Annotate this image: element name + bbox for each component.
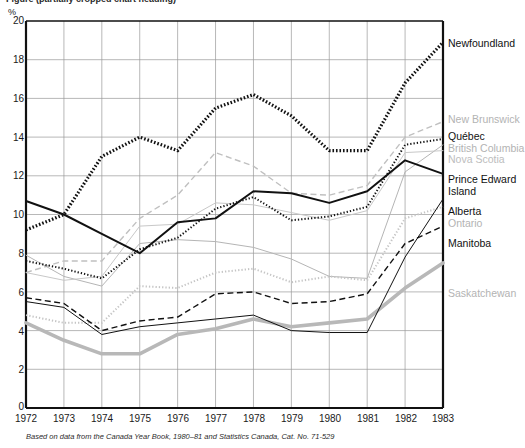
series-label-saskatchewan: Saskatchewan (448, 288, 516, 299)
series-label-alberta: Alberta (448, 206, 481, 217)
series-label-manitoba: Manitoba (448, 238, 491, 249)
source-footnote: Based on data from the Canada Year Book,… (26, 432, 334, 441)
series-line-alberta (26, 199, 443, 334)
series-label-british-columbia: British Columbia (448, 143, 524, 154)
unemployment-line-chart-figure: Figure (partially cropped chart heading)… (0, 0, 525, 448)
series-line-nova-scotia (26, 151, 443, 281)
series-label-prince-edward-island-line2: Island (448, 186, 476, 197)
series-label-prince-edward-island: Prince Edward (448, 174, 516, 185)
series-label-newfoundland: Newfoundland (448, 38, 515, 49)
series-label-ontario: Ontario (448, 218, 482, 229)
series-line-british-columbia (26, 145, 443, 286)
series-line-new-brunswick (26, 122, 443, 273)
series-line-newfoundland (26, 42, 443, 230)
series-label-nova-scotia: Nova Scotia (448, 154, 505, 165)
plot-canvas (0, 0, 525, 448)
series-label-new-brunswick: New Brunswick (448, 114, 520, 125)
series-label-quebec: Québec (448, 131, 485, 142)
data-series-layer (26, 42, 443, 354)
